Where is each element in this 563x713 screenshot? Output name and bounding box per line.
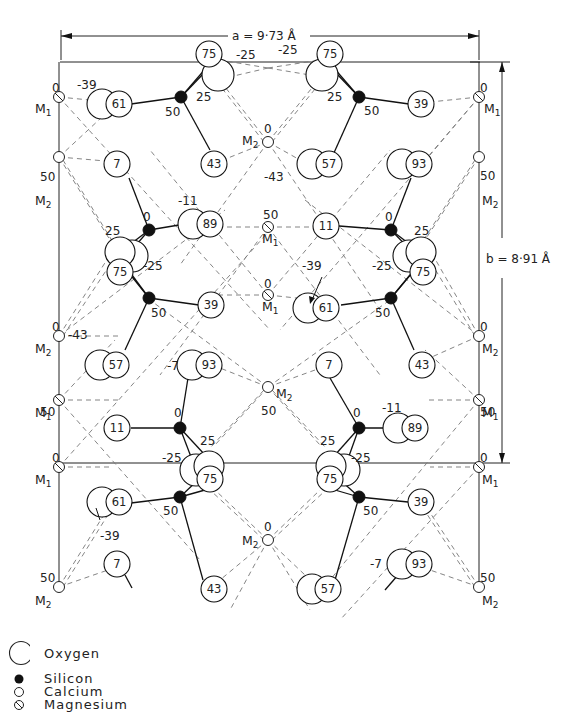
svg-text:89: 89 xyxy=(203,217,218,231)
svg-text:61: 61 xyxy=(112,495,127,509)
svg-text:43: 43 xyxy=(415,358,430,372)
svg-text:11: 11 xyxy=(110,421,125,435)
svg-text:75: 75 xyxy=(113,265,128,279)
svg-text:-7: -7 xyxy=(167,359,179,373)
svg-text:-11: -11 xyxy=(178,194,198,208)
magnesium-icon xyxy=(13,699,25,711)
svg-text:0: 0 xyxy=(264,277,272,291)
svg-text:M2: M2 xyxy=(242,133,259,150)
svg-text:0: 0 xyxy=(174,406,182,420)
svg-text:M2: M2 xyxy=(242,533,259,550)
svg-text:-43: -43 xyxy=(264,170,284,184)
svg-text:-25: -25 xyxy=(351,451,371,465)
svg-text:11: 11 xyxy=(319,219,334,233)
calcium-icon xyxy=(13,686,25,698)
svg-text:-43: -43 xyxy=(68,328,88,342)
svg-text:M2: M2 xyxy=(482,193,499,210)
svg-text:75: 75 xyxy=(202,47,217,61)
svg-text:57: 57 xyxy=(109,358,124,372)
svg-text:0: 0 xyxy=(143,210,151,224)
svg-text:25: 25 xyxy=(105,224,120,238)
svg-text:M1: M1 xyxy=(484,101,501,118)
svg-text:57: 57 xyxy=(322,157,337,171)
svg-text:50: 50 xyxy=(263,208,278,222)
a-dimension-label: a = 9·73 Å xyxy=(232,28,297,43)
svg-text:75: 75 xyxy=(416,265,431,279)
legend-oxygen-label: Oxygen xyxy=(44,646,100,661)
svg-text:M1: M1 xyxy=(262,299,279,316)
svg-text:50: 50 xyxy=(261,404,276,418)
svg-text:50: 50 xyxy=(375,306,390,320)
oxygen-icon xyxy=(8,640,30,666)
svg-text:89: 89 xyxy=(408,421,423,435)
svg-text:50: 50 xyxy=(151,306,166,320)
svg-text:M2: M2 xyxy=(482,341,499,358)
svg-text:0: 0 xyxy=(264,122,272,136)
svg-text:-25: -25 xyxy=(278,43,298,57)
svg-text:7: 7 xyxy=(113,557,120,571)
svg-text:39: 39 xyxy=(414,495,429,509)
svg-text:0: 0 xyxy=(353,406,361,420)
svg-text:0: 0 xyxy=(52,320,60,334)
svg-text:25: 25 xyxy=(200,434,215,448)
svg-text:0: 0 xyxy=(52,451,60,465)
svg-text:39: 39 xyxy=(204,298,219,312)
svg-text:75: 75 xyxy=(323,472,338,486)
svg-text:93: 93 xyxy=(412,557,427,571)
svg-text:93: 93 xyxy=(202,358,217,372)
svg-text:7: 7 xyxy=(113,157,120,171)
legend-magnesium-label: Magnesium xyxy=(44,697,128,712)
svg-text:M1: M1 xyxy=(35,472,52,489)
svg-text:50: 50 xyxy=(163,504,178,518)
svg-text:M2: M2 xyxy=(276,386,293,403)
svg-text:50: 50 xyxy=(364,104,379,118)
svg-text:M2: M2 xyxy=(35,341,52,358)
svg-text:-25: -25 xyxy=(236,48,256,62)
svg-text:43: 43 xyxy=(207,582,222,596)
svg-text:-39: -39 xyxy=(77,78,97,92)
svg-text:M1: M1 xyxy=(482,405,499,422)
legend: Oxygen Silicon Calcium Magnesium xyxy=(8,638,128,711)
svg-text:39: 39 xyxy=(414,97,429,111)
svg-text:-25: -25 xyxy=(162,451,182,465)
svg-text:M2: M2 xyxy=(482,593,499,610)
svg-text:25: 25 xyxy=(196,90,211,104)
svg-text:50: 50 xyxy=(363,504,378,518)
svg-text:-7: -7 xyxy=(370,557,382,571)
svg-text:7: 7 xyxy=(325,358,332,372)
svg-text:50: 50 xyxy=(480,571,495,585)
silicon-icon xyxy=(13,673,25,685)
svg-text:61: 61 xyxy=(112,97,127,111)
svg-text:0: 0 xyxy=(385,210,393,224)
svg-text:-39: -39 xyxy=(100,529,120,543)
svg-text:0: 0 xyxy=(480,320,488,334)
svg-text:-11: -11 xyxy=(382,401,402,415)
a-dimension: a = 9·73 Å xyxy=(61,28,479,60)
svg-text:25: 25 xyxy=(327,90,342,104)
crystal-structure-diagram: a = 9·73 Å b = 8·91 Å xyxy=(0,0,563,713)
svg-text:0: 0 xyxy=(264,520,272,534)
svg-text:0: 0 xyxy=(480,81,488,95)
svg-text:25: 25 xyxy=(320,434,335,448)
svg-text:50: 50 xyxy=(165,105,180,119)
svg-text:-25: -25 xyxy=(372,259,392,273)
svg-text:50: 50 xyxy=(40,571,55,585)
svg-text:50: 50 xyxy=(40,170,55,184)
svg-text:-25: -25 xyxy=(143,259,163,273)
svg-text:50: 50 xyxy=(480,169,495,183)
svg-text:57: 57 xyxy=(321,582,336,596)
svg-text:75: 75 xyxy=(323,47,338,61)
svg-text:75: 75 xyxy=(203,472,218,486)
svg-text:M1: M1 xyxy=(35,101,52,118)
b-dimension-label: b = 8·91 Å xyxy=(486,251,551,266)
svg-text:43: 43 xyxy=(207,157,222,171)
svg-text:-39: -39 xyxy=(302,259,322,273)
svg-text:61: 61 xyxy=(319,301,334,315)
svg-text:M2: M2 xyxy=(35,193,52,210)
svg-text:25: 25 xyxy=(414,224,429,238)
svg-text:M1: M1 xyxy=(262,231,279,248)
legend-oxygen: Oxygen xyxy=(8,638,128,668)
svg-text:0: 0 xyxy=(52,81,60,95)
svg-text:0: 0 xyxy=(480,451,488,465)
svg-text:M1: M1 xyxy=(482,472,499,489)
